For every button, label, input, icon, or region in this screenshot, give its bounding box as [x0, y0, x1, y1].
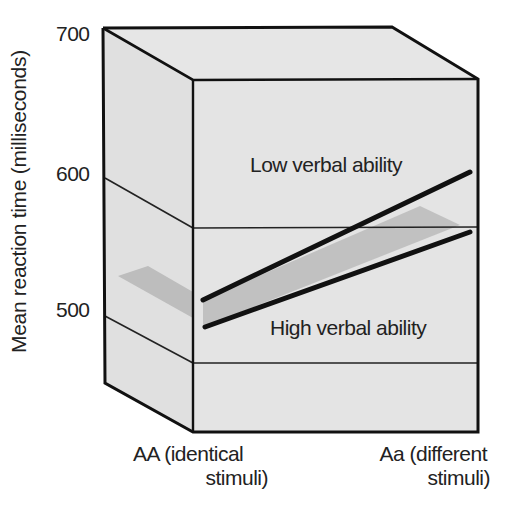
- x-label-left-1: AA (identical: [133, 442, 243, 465]
- y-tick-500: 500: [56, 298, 90, 322]
- y-tick-600: 600: [56, 162, 90, 186]
- x-label-left-2: stimuli): [133, 466, 268, 489]
- chart-3d-box: [0, 0, 510, 518]
- x-label-right-2: stimuli): [340, 466, 490, 489]
- gridline-600-front: [193, 227, 478, 228]
- x-label-right-1: Aa (different: [340, 442, 487, 465]
- series-label-low: Low verbal ability: [250, 153, 402, 176]
- left-face: [103, 28, 193, 432]
- y-axis-label: Mean reaction time (milliseconds): [7, 63, 31, 353]
- series-label-high: High verbal ability: [270, 316, 426, 339]
- y-tick-700: 700: [56, 22, 90, 46]
